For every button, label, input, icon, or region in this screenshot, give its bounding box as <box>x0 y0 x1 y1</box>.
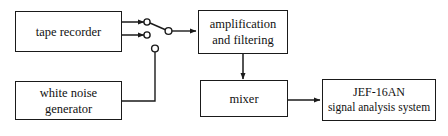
switch-contact-noise-terminal[interactable] <box>152 45 159 52</box>
node-amplification-and-filtering[interactable]: amplification and filtering <box>198 10 288 54</box>
node-mixer[interactable]: mixer <box>200 80 288 117</box>
switch-contact-lower-terminal[interactable] <box>144 32 150 38</box>
node-signal-analysis-system[interactable]: JEF-16AN signal analysis system <box>322 79 436 121</box>
node-mixer-label: mixer <box>229 91 258 107</box>
switch-pivot-terminal[interactable] <box>165 28 172 35</box>
connector-white-noise-to-switch-contact <box>122 52 155 101</box>
node-tape-recorder-label: tape recorder <box>36 24 102 40</box>
connector-switch-blade <box>150 23 166 30</box>
node-white-noise-generator[interactable]: white noise generator <box>15 81 122 120</box>
switch-contact-upper-terminal[interactable] <box>144 19 150 25</box>
node-signal-analysis-system-label-line2: signal analysis system <box>328 100 430 115</box>
node-signal-analysis-system-label-line1: JEF-16AN <box>353 85 405 100</box>
node-amplification-label-line1: amplification <box>210 16 277 32</box>
node-tape-recorder[interactable]: tape recorder <box>15 11 122 52</box>
node-white-noise-generator-label-line2: generator <box>45 101 92 117</box>
node-white-noise-generator-label-line1: white noise <box>40 85 97 101</box>
node-amplification-label-line2: and filtering <box>212 32 273 48</box>
block-diagram: tape recorder white noise generator ampl… <box>0 0 448 136</box>
